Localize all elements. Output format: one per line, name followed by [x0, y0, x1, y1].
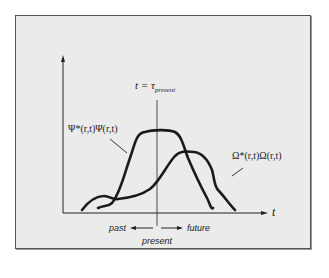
psi-probability-curve [98, 130, 213, 208]
y-axis-arrow-icon [61, 55, 65, 62]
future-arrow-icon [177, 226, 183, 230]
omega-leader-line [232, 168, 243, 176]
past-label: past [109, 223, 126, 233]
psi-leader-line [110, 139, 127, 153]
x-axis-arrow-icon [261, 211, 268, 215]
psi-curve-label: Ψ*(r,t)Ψ(r,t) [68, 123, 118, 134]
present-label: present [142, 236, 172, 246]
x-axis-label: t [272, 205, 275, 220]
future-label: future [187, 223, 210, 233]
past-arrow-icon [130, 226, 136, 230]
time-marker-label: t = τpresent [135, 79, 175, 94]
omega-curve-label: Ω*(r,t)Ω(r,t) [232, 150, 282, 161]
omega-probability-curve [82, 151, 235, 210]
